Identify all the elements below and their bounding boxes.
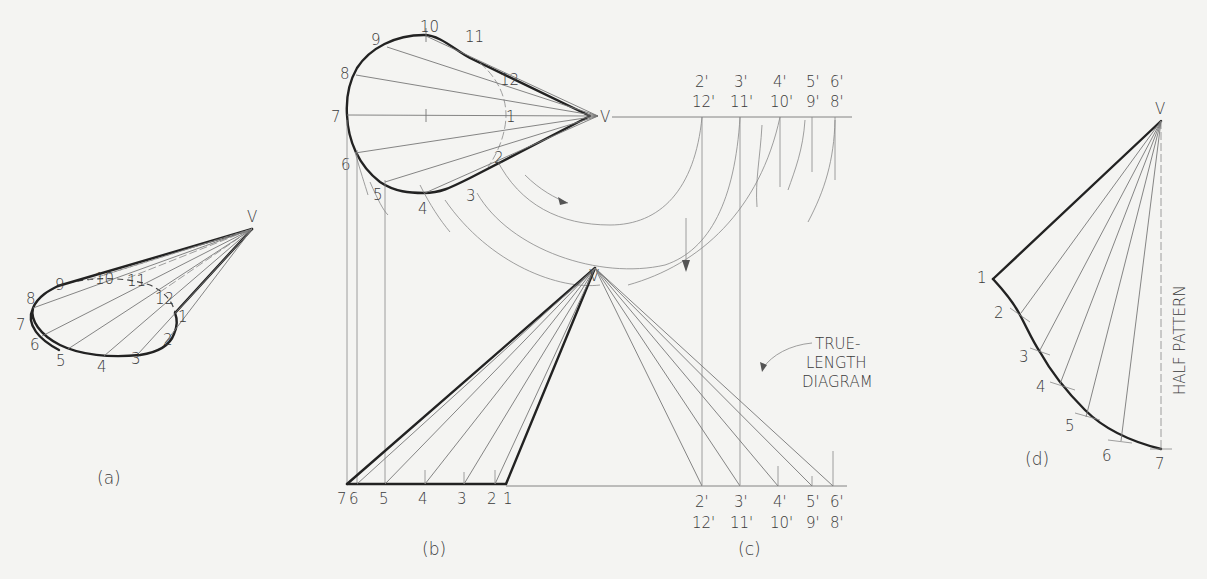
bottom-label: 2'	[695, 493, 709, 511]
top-label: 11'	[730, 93, 753, 111]
point-label: 1	[506, 108, 516, 126]
top-label: 6'	[830, 73, 844, 91]
panel-a-pictorial-cone: V 1 2 3 4 5 6 7 8 9 10 11 12 (a)	[16, 208, 257, 488]
top-label: 8'	[830, 93, 844, 111]
point-label: 3	[131, 350, 141, 368]
baseline-label: 5	[379, 490, 389, 508]
point-label: 1	[977, 269, 987, 287]
point-label: 2	[163, 331, 173, 349]
caption-d: (d)	[1025, 449, 1049, 469]
point-label: 9	[371, 31, 381, 49]
baseline-label: 7	[337, 490, 347, 508]
point-label: 4	[418, 200, 428, 218]
baseline-label: 2	[487, 490, 497, 508]
top-label: 2'	[695, 73, 709, 91]
point-label: 11	[127, 272, 146, 290]
bottom-label: 6'	[830, 493, 844, 511]
point-label: 3	[1019, 348, 1029, 366]
baseline-label: 4	[418, 490, 428, 508]
top-label: 12'	[692, 93, 715, 111]
bottom-label: 4'	[773, 493, 787, 511]
bottom-label: 11'	[730, 514, 753, 532]
bottom-label: 10'	[770, 514, 793, 532]
point-label: 10	[420, 18, 439, 36]
point-label: 9	[55, 276, 65, 294]
point-label: 6	[30, 336, 40, 354]
point-label: 12	[155, 290, 174, 308]
point-label: 2	[494, 149, 504, 167]
vertex-label-d: V	[1155, 100, 1165, 118]
baseline-label: 1	[503, 490, 513, 508]
top-label: 3'	[734, 73, 748, 91]
panel-b-top-view: V 1 2 3 4 5 6 7 8 9 10 11 12	[331, 18, 852, 286]
half-pattern-label: HALF PATTERN	[1171, 285, 1189, 395]
bottom-label: 3'	[734, 493, 748, 511]
bottom-label: 5'	[806, 493, 820, 511]
projection-lines	[347, 117, 740, 485]
vertex-label-a: V	[247, 208, 257, 226]
point-label: 8	[340, 65, 350, 83]
point-label: 5	[1065, 417, 1075, 435]
point-label: 10	[95, 270, 114, 288]
point-label: 11	[465, 28, 484, 46]
annotation-text: DIAGRAM	[802, 373, 873, 391]
point-label: 7	[331, 108, 341, 126]
baseline-label: 6	[349, 490, 359, 508]
baseline-label: 3	[457, 490, 467, 508]
panel-b-front-view: V 7 6 5 4 3 2 1 (b)	[337, 267, 599, 559]
point-label: 7	[1155, 455, 1165, 473]
caption-a: (a)	[97, 468, 121, 488]
annotation-text: LENGTH	[806, 354, 867, 372]
point-label: 7	[16, 316, 26, 334]
annotation-text: TRUE-	[815, 335, 860, 353]
panel-c-true-length-diagram: 2' 3' 4' 5' 6' 12' 11' 10' 9' 8' 2' 3' 4…	[506, 73, 873, 559]
point-label: 5	[373, 186, 383, 204]
point-label: 5	[56, 352, 66, 370]
point-label: 6	[341, 156, 351, 174]
caption-b: (b)	[422, 539, 446, 559]
point-label: 12	[500, 71, 519, 89]
top-label: 10'	[770, 93, 793, 111]
bottom-label: 12'	[692, 514, 715, 532]
point-label: 3	[466, 187, 476, 205]
panel-d-half-pattern: V 1 2 3 4 5 6 7 HALF PATTERN (d)	[977, 100, 1189, 473]
point-label: 6	[1102, 447, 1112, 465]
point-label: 1	[178, 308, 188, 326]
vertex-label-b-front: V	[589, 267, 599, 285]
point-label: 4	[97, 358, 107, 376]
bottom-label: 9'	[806, 514, 820, 532]
top-label: 5'	[806, 73, 820, 91]
vertex-label-b-top: V	[600, 108, 610, 126]
point-label: 8	[26, 290, 36, 308]
caption-c: (c)	[738, 539, 761, 559]
point-label: 2	[994, 304, 1004, 322]
top-label: 4'	[773, 73, 787, 91]
top-label: 9'	[806, 93, 820, 111]
bottom-label: 8'	[830, 514, 844, 532]
point-label: 4	[1036, 378, 1046, 396]
cone-development-figure: V 1 2 3 4 5 6 7 8 9 10 11 12 (a)	[0, 0, 1207, 579]
